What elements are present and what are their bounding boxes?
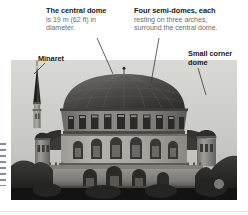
callout-central-dome-heading: The central dome — [46, 7, 106, 16]
figure-page: The central dome is 19 m (62 ft) in diam… — [0, 0, 248, 215]
lower-facade — [39, 166, 211, 189]
page-bleed-text-column — [0, 143, 6, 199]
callout-semi-domes: Four semi-domes, each resting on three a… — [134, 7, 217, 32]
callout-minaret-heading: Minaret — [38, 55, 64, 64]
callout-semi-domes-heading: Four semi-domes, each — [134, 7, 217, 16]
mosque-illustration — [11, 60, 237, 200]
upper-wall — [59, 134, 189, 166]
callout-corner-dome-line2: dome — [188, 59, 232, 68]
callout-central-dome-line1: is 19 m (62 ft) in — [46, 16, 106, 24]
callout-central-dome-line2: diameter. — [46, 24, 106, 32]
callout-semi-domes-line1: resting on three arches, — [134, 16, 217, 24]
page-bottom-rule — [0, 211, 248, 212]
callout-corner-dome: Small corner dome — [188, 50, 232, 67]
callout-central-dome: The central dome is 19 m (62 ft) in diam… — [46, 7, 106, 32]
mosque-photograph — [11, 60, 237, 200]
callout-semi-domes-line2: surround the central dome. — [134, 24, 217, 32]
callout-minaret: Minaret — [38, 55, 64, 64]
dome-drum — [61, 111, 187, 134]
